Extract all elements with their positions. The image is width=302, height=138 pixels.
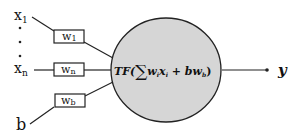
output-arrow-dot: [265, 68, 269, 72]
input-x1-label: x1: [14, 7, 28, 25]
neuron-diagram: x1 xn b w1 wn wb TF(∑wixi + bwb) y: [0, 0, 302, 138]
output-y-label: y: [277, 61, 288, 79]
weight-box-wb: wb: [55, 94, 85, 107]
w1-to-neuron-line: [84, 42, 113, 58]
x1-to-w1-line: [32, 17, 54, 31]
weight-box-wn: wn: [54, 63, 84, 76]
bias-label: b: [16, 115, 26, 134]
weight-box-w1: w1: [54, 30, 84, 43]
b-to-wb-line: [30, 107, 54, 124]
ellipsis-dots: [19, 27, 22, 58]
wb-to-neuron-line: [85, 82, 113, 96]
input-xn-label: xn: [14, 60, 28, 78]
